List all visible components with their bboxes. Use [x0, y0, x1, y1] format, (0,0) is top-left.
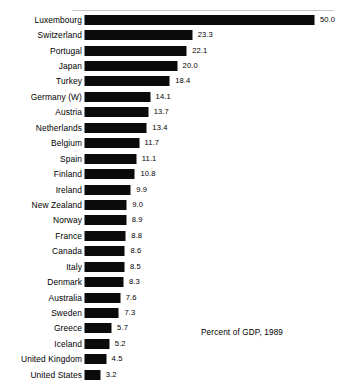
bar	[85, 77, 169, 86]
bar-value-label: 13.4	[152, 124, 167, 132]
bar-track	[85, 339, 109, 348]
bar-category-label: Austria	[55, 108, 82, 117]
bar-row: Spain11.1	[0, 151, 353, 166]
bar-category-label: New Zealand	[32, 200, 82, 209]
bar-row: Netherlands13.4	[0, 120, 353, 135]
bar-track	[85, 247, 124, 256]
bar-category-label: United Kingdom	[21, 355, 82, 364]
bar-row: Finland10.8	[0, 166, 353, 181]
bar-value-label: 23.3	[198, 31, 213, 39]
bar	[85, 46, 186, 55]
bar	[85, 293, 120, 302]
bar-category-label: Luxembourg	[34, 15, 82, 24]
bar-row: Luxembourg50.0	[0, 12, 353, 27]
bar	[85, 62, 177, 71]
bar-row: Austria13.7	[0, 105, 353, 120]
bar	[85, 170, 134, 179]
bar-value-label: 8.6	[130, 247, 141, 255]
scan-artifact-line	[72, 10, 334, 11]
bar-value-label: 7.3	[124, 309, 135, 317]
bar	[85, 278, 123, 287]
bar-track	[85, 370, 100, 379]
bar	[85, 108, 148, 117]
bar-value-label: 11.1	[142, 155, 157, 163]
bar-track	[85, 123, 146, 132]
bar-value-label: 20.0	[183, 62, 198, 70]
bar	[85, 154, 136, 163]
bar-value-label: 8.8	[131, 232, 142, 240]
bar-value-label: 13.7	[154, 108, 169, 116]
bar	[85, 370, 100, 379]
bar-track	[85, 62, 177, 71]
bar-track	[85, 278, 123, 287]
bar	[85, 185, 130, 194]
bar-category-label: Australia	[49, 293, 82, 302]
bar-row: Australia7.6	[0, 290, 353, 305]
bar-category-label: United States	[30, 370, 82, 379]
bar-category-label: Norway	[53, 216, 82, 225]
bar-track	[85, 92, 150, 101]
bar	[85, 15, 314, 24]
bar-value-label: 18.4	[175, 77, 190, 85]
bar-track	[85, 309, 118, 318]
bar-track	[85, 200, 126, 209]
bar-track	[85, 293, 120, 302]
bar-track	[85, 185, 130, 194]
bar	[85, 309, 118, 318]
bar-value-label: 8.5	[130, 263, 141, 271]
bar-track	[85, 46, 186, 55]
chart-caption: Percent of GDP, 1989	[201, 328, 283, 338]
bar-row: France8.8	[0, 228, 353, 243]
bar-category-label: Turkey	[56, 77, 82, 86]
bar-track	[85, 262, 124, 271]
bar-category-label: Italy	[66, 262, 82, 271]
bar	[85, 92, 150, 101]
bar-track	[85, 77, 169, 86]
bar-row: Portugal22.1	[0, 43, 353, 58]
bar	[85, 262, 124, 271]
bar-category-label: Switzerland	[38, 31, 82, 40]
bar-row: Canada8.6	[0, 244, 353, 259]
bar-row: Iceland5.2	[0, 336, 353, 351]
bar-track	[85, 31, 192, 40]
bar-value-label: 11.7	[145, 139, 160, 147]
bar-row: Norway8.9	[0, 213, 353, 228]
bar-row: Italy8.5	[0, 259, 353, 274]
bar	[85, 216, 126, 225]
bar-track	[85, 139, 139, 148]
bar-value-label: 3.2	[106, 371, 117, 379]
bar-category-label: Finland	[54, 170, 82, 179]
bar-value-label: 50.0	[320, 16, 335, 24]
bar-row: Switzerland23.3	[0, 27, 353, 42]
bar-category-label: Portugal	[50, 46, 82, 55]
bar-row: New Zealand9.0	[0, 197, 353, 212]
bar-value-label: 8.9	[132, 216, 143, 224]
bar-row: Greece5.7	[0, 321, 353, 336]
bar-row: Denmark8.3	[0, 274, 353, 289]
bar-category-label: Sweden	[51, 309, 82, 318]
bar-value-label: 10.8	[140, 170, 155, 178]
bar-track	[85, 324, 111, 333]
bar-category-label: Denmark	[47, 278, 82, 287]
bar-value-label: 9.0	[132, 201, 143, 209]
bar	[85, 200, 126, 209]
bar-track	[85, 154, 136, 163]
bar-category-label: Greece	[54, 324, 82, 333]
bar-category-label: France	[55, 231, 82, 240]
bar	[85, 324, 111, 333]
bar-category-label: Ireland	[56, 185, 82, 194]
bar	[85, 123, 146, 132]
bar-row: Germany (W)14.1	[0, 89, 353, 104]
bar	[85, 339, 109, 348]
bar-track	[85, 108, 148, 117]
bar-value-label: 4.5	[112, 355, 123, 363]
bar-row: Belgium11.7	[0, 136, 353, 151]
bar-value-label: 7.6	[126, 294, 137, 302]
bar-rows: Luxembourg50.0Switzerland23.3Portugal22.…	[0, 12, 353, 383]
bar	[85, 247, 124, 256]
bar	[85, 139, 139, 148]
bar-row: Japan20.0	[0, 58, 353, 73]
bar-category-label: Japan	[59, 62, 82, 71]
bar-row: Ireland9.9	[0, 182, 353, 197]
